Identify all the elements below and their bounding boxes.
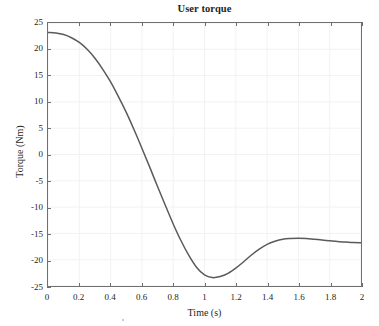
y-tick-label: 20 <box>3 44 43 53</box>
y-tick-mark <box>47 128 51 129</box>
y-axis-label: Torque (Nm) <box>14 102 25 202</box>
y-tick-mark <box>47 49 51 50</box>
x-tick-mark-top <box>110 22 111 26</box>
y-tick-mark <box>47 261 51 262</box>
x-tick-mark-top <box>173 22 174 26</box>
x-tick-mark <box>205 283 206 287</box>
x-axis-label: Time (s) <box>47 307 362 318</box>
y-tick-label: 25 <box>3 18 43 27</box>
dust-speck <box>122 319 124 321</box>
chart-title: User torque <box>47 3 362 14</box>
x-tick-mark <box>173 283 174 287</box>
x-tick-mark-top <box>79 22 80 26</box>
x-tick-mark <box>79 283 80 287</box>
x-tick-mark-top <box>299 22 300 26</box>
y-tick-mark <box>47 287 51 288</box>
x-tick-mark <box>268 283 269 287</box>
figure-container: User torque 2520151050-5-10-15-20-25 00.… <box>0 0 379 326</box>
plot-area <box>47 22 362 287</box>
x-tick-label: 2 <box>342 293 379 302</box>
x-tick-mark-top <box>331 22 332 26</box>
y-tick-mark <box>47 208 51 209</box>
x-tick-mark-top <box>47 22 48 26</box>
y-tick-label: -15 <box>3 230 43 239</box>
x-tick-mark <box>236 283 237 287</box>
y-tick-mark <box>47 181 51 182</box>
y-tick-label: 15 <box>3 71 43 80</box>
x-tick-mark <box>47 283 48 287</box>
y-tick-mark <box>47 155 51 156</box>
x-tick-mark-top <box>362 22 363 26</box>
x-tick-mark-top <box>268 22 269 26</box>
y-tick-mark <box>47 75 51 76</box>
y-tick-label: -20 <box>3 256 43 265</box>
y-tick-mark <box>47 234 51 235</box>
x-tick-mark-top <box>142 22 143 26</box>
x-tick-mark <box>362 283 363 287</box>
x-tick-mark <box>142 283 143 287</box>
y-tick-label: -25 <box>3 283 43 292</box>
x-tick-mark <box>331 283 332 287</box>
x-tick-mark <box>110 283 111 287</box>
x-tick-mark <box>299 283 300 287</box>
x-tick-mark-top <box>205 22 206 26</box>
x-axis-tick-labels: 00.20.40.60.811.21.41.61.82 <box>0 293 379 307</box>
x-tick-mark-top <box>236 22 237 26</box>
torque-curve <box>48 23 361 286</box>
y-tick-label: -10 <box>3 203 43 212</box>
y-tick-mark <box>47 102 51 103</box>
